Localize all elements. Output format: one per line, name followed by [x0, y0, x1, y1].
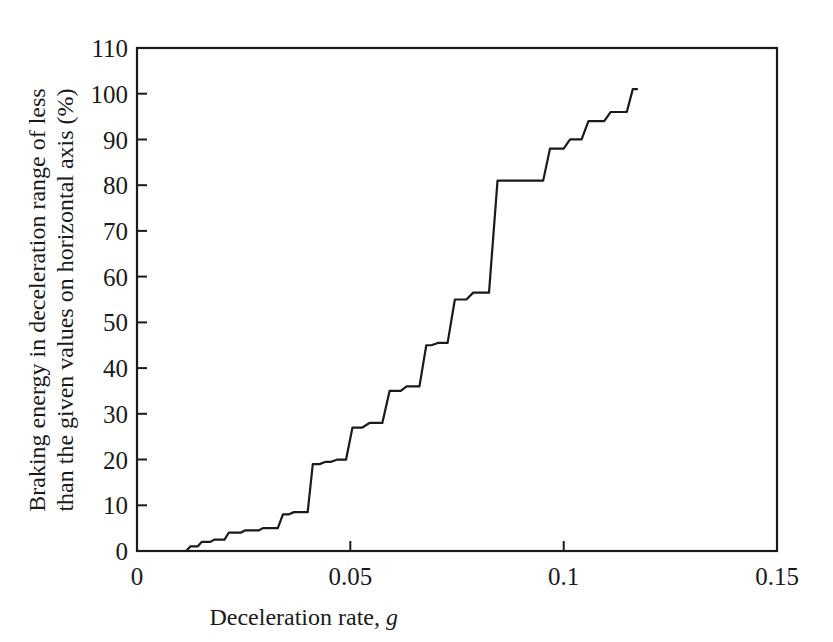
chart-svg: 0 10 20 30 40 50 60 70 80 90 100 110 0 0… — [0, 0, 833, 642]
x-axis-title-text: Deceleration rate, — [209, 604, 380, 630]
x-axis-title: Deceleration rate, g — [209, 604, 398, 630]
figure-container: 0 10 20 30 40 50 60 70 80 90 100 110 0 0… — [0, 0, 833, 642]
y-tick-label-90: 90 — [103, 127, 128, 154]
y-tick-label-110: 110 — [91, 35, 128, 62]
y-tick-label-30: 30 — [103, 401, 128, 428]
x-tick-label-01: 0.1 — [548, 563, 579, 590]
y-tick-label-0: 0 — [116, 538, 129, 565]
y-axis-title-line1: Braking energy in deceleration range of … — [24, 88, 50, 511]
x-tick-label-005: 0.05 — [328, 563, 372, 590]
y-tick-label-20: 20 — [103, 447, 128, 474]
x-tick-label-015: 0.15 — [755, 563, 799, 590]
y-tick-label-60: 60 — [103, 264, 128, 291]
y-tick-label-80: 80 — [103, 172, 128, 199]
x-tick-labels: 0 0.05 0.1 0.15 — [131, 563, 799, 590]
y-tick-label-50: 50 — [103, 309, 128, 336]
y-tick-labels: 0 10 20 30 40 50 60 70 80 90 100 110 — [91, 35, 129, 565]
x-axis-title-symbol: g — [386, 604, 398, 630]
y-tick-label-10: 10 — [103, 492, 128, 519]
y-tick-label-40: 40 — [103, 355, 128, 382]
y-axis-title-line2: than the given values on horizontal axis… — [52, 88, 78, 511]
y-axis-title: Braking energy in deceleration range of … — [24, 88, 78, 511]
y-tick-label-70: 70 — [103, 218, 128, 245]
y-tick-label-100: 100 — [91, 81, 129, 108]
x-tick-label-0: 0 — [131, 563, 144, 590]
